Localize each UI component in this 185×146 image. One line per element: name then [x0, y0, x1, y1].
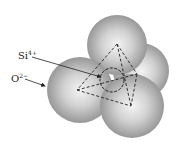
- silicon-label: Si4+: [18, 49, 37, 61]
- oxygen-arrow: [25, 79, 45, 86]
- oxygen-label: O2−: [11, 72, 28, 84]
- oxygen-sphere-bottom: [100, 74, 164, 138]
- tetrahedron-diagram: Si4+ O2−: [0, 0, 185, 146]
